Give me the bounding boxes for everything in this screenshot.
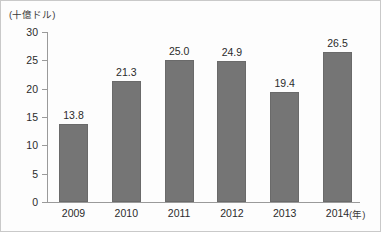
bar-chart: (十億ドル) 051015202530 13.821.325.024.919.4…	[0, 0, 381, 232]
y-tick-label: 10	[0, 139, 38, 151]
y-tick-mark	[42, 60, 47, 61]
bar-value-label: 24.9	[209, 46, 254, 58]
bar	[59, 124, 88, 202]
y-tick-mark	[42, 89, 47, 90]
y-tick-label: 15	[0, 111, 38, 123]
x-tick-label: 2013	[260, 207, 309, 219]
bar	[217, 61, 246, 202]
y-tick-mark	[42, 202, 47, 203]
bar-value-label: 25.0	[157, 45, 202, 57]
bar-value-label: 19.4	[262, 77, 307, 89]
y-tick-mark	[42, 117, 47, 118]
y-tick-label: 0	[0, 196, 38, 208]
bar	[270, 92, 299, 202]
x-tick-label: 2009	[49, 207, 98, 219]
x-tick-label: 2010	[102, 207, 151, 219]
bar-value-label: 13.8	[51, 109, 96, 121]
bar	[165, 60, 194, 202]
y-tick-label: 20	[0, 83, 38, 95]
bar	[112, 81, 141, 202]
y-tick-mark	[42, 32, 47, 33]
x-axis-line	[47, 202, 360, 203]
y-tick-mark	[42, 145, 47, 146]
bar-value-label: 21.3	[104, 66, 149, 78]
y-axis-unit-label: (十億ドル)	[9, 7, 55, 21]
bar-value-label: 26.5	[315, 37, 360, 49]
y-tick-label: 25	[0, 54, 38, 66]
y-tick-mark	[42, 174, 47, 175]
x-tick-label: 2012	[207, 207, 256, 219]
y-axis-line	[47, 32, 48, 203]
y-tick-label: 5	[0, 168, 38, 180]
bar	[323, 52, 352, 202]
x-tick-label: 2011	[155, 207, 204, 219]
y-tick-label: 30	[0, 26, 38, 38]
x-axis-unit-label: (年)	[349, 207, 365, 221]
